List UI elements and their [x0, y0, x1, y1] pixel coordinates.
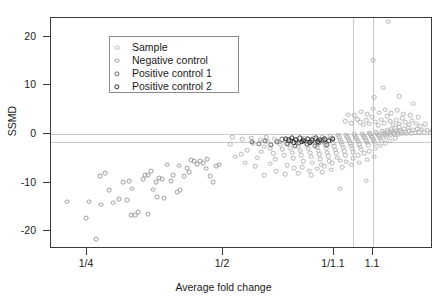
data-point	[408, 113, 413, 118]
y-tick-label: 20	[0, 30, 40, 42]
data-point	[349, 162, 354, 167]
data-point	[343, 153, 348, 158]
data-point	[391, 122, 396, 127]
y-tick-mark	[43, 230, 50, 231]
data-point	[141, 177, 146, 182]
data-point	[84, 216, 89, 221]
data-point	[187, 170, 192, 175]
data-point	[365, 112, 370, 117]
data-point	[376, 123, 381, 128]
legend-item-label: Negative control	[132, 54, 208, 66]
data-point	[301, 159, 306, 164]
data-point	[346, 112, 351, 117]
data-point	[397, 94, 402, 99]
data-point	[182, 173, 187, 178]
data-point	[149, 169, 154, 174]
legend-marker-circle-icon	[114, 71, 119, 76]
legend-marker-circle-icon	[115, 45, 120, 50]
data-point	[204, 166, 209, 171]
data-point	[401, 111, 406, 116]
data-point	[291, 156, 296, 161]
data-point	[121, 180, 126, 185]
data-point	[130, 186, 135, 191]
data-point	[253, 164, 258, 169]
data-point	[351, 156, 356, 161]
data-point	[211, 180, 216, 185]
data-point	[371, 58, 376, 63]
data-point	[160, 176, 165, 181]
x-tick-mark	[372, 248, 373, 255]
legend-item: Positive control 2	[110, 80, 238, 93]
data-point	[315, 166, 320, 171]
data-point	[381, 85, 386, 90]
data-point	[309, 173, 314, 178]
data-point	[282, 153, 287, 158]
data-point	[395, 108, 400, 113]
data-point	[111, 200, 116, 205]
data-point	[245, 148, 250, 153]
x-tick-label: 1/4	[79, 257, 94, 269]
data-point	[290, 150, 295, 155]
data-point	[274, 169, 279, 174]
data-point	[296, 171, 301, 176]
data-point	[205, 157, 210, 162]
data-point	[386, 19, 391, 24]
data-point	[233, 155, 238, 160]
scatter-plot-figure: SSMD 20100-10-20 SampleNegative controlP…	[0, 0, 447, 304]
data-point	[356, 153, 361, 158]
data-point	[349, 121, 354, 126]
data-point	[366, 143, 371, 148]
data-point	[259, 149, 264, 154]
data-point	[320, 170, 325, 175]
data-point	[103, 171, 108, 176]
data-point	[299, 153, 304, 158]
data-point	[127, 178, 132, 183]
data-point	[393, 136, 398, 141]
data-point	[107, 188, 112, 193]
data-point	[177, 163, 182, 168]
data-point	[217, 162, 222, 167]
data-point	[357, 160, 362, 165]
data-point	[330, 161, 335, 166]
data-point	[230, 135, 235, 140]
data-point	[338, 158, 343, 163]
data-point	[340, 165, 345, 170]
data-point	[65, 199, 70, 204]
data-point	[388, 139, 393, 144]
data-point	[285, 163, 290, 168]
data-point	[318, 157, 323, 162]
data-point	[117, 196, 122, 201]
legend-marker-circle-icon	[115, 58, 120, 63]
data-point	[430, 128, 432, 133]
data-point	[411, 102, 416, 107]
data-point	[262, 173, 267, 178]
data-point	[280, 147, 285, 152]
data-point	[344, 159, 349, 164]
data-point	[271, 151, 276, 156]
y-tick-label: -20	[0, 224, 40, 236]
data-point	[338, 186, 343, 191]
data-point	[367, 121, 372, 126]
x-tick-mark	[222, 248, 223, 255]
data-point	[343, 119, 348, 124]
data-point	[273, 157, 278, 162]
data-point	[151, 187, 156, 192]
data-point	[99, 202, 104, 207]
data-point	[365, 158, 370, 163]
data-point	[125, 198, 130, 203]
data-point	[372, 95, 377, 100]
data-point	[201, 161, 206, 166]
x-axis-label: Average fold change	[0, 281, 447, 293]
legend-item-label: Positive control 2	[132, 80, 212, 92]
x-tick-label: 1/2	[215, 257, 230, 269]
data-point	[262, 144, 267, 149]
data-point	[243, 160, 248, 165]
data-point	[94, 236, 99, 241]
legend-item-label: Positive control 1	[132, 67, 212, 79]
data-point	[208, 174, 213, 179]
data-point	[292, 166, 297, 171]
data-point	[351, 150, 356, 155]
y-tick-label: 10	[0, 78, 40, 90]
y-tick-mark	[43, 182, 50, 183]
data-point	[378, 143, 383, 148]
